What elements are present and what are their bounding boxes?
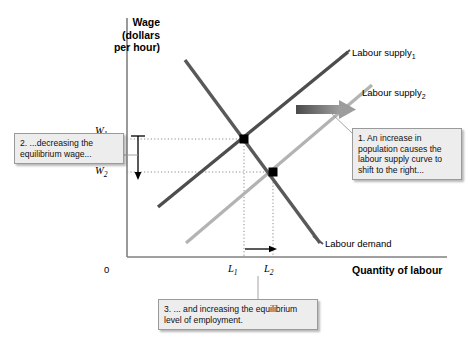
wage-tick-w2: W2 — [95, 165, 108, 179]
y-axis-title-line-2: (dollars — [94, 29, 160, 42]
labour-supply2-label-sub: 2 — [422, 93, 426, 100]
callout-population-increase: 1. An increase in population causes the … — [352, 128, 462, 180]
employment-increase-arrow — [245, 246, 277, 252]
quantity-tick-l2-sub: 2 — [270, 268, 274, 277]
labour-demand-curve — [185, 60, 320, 243]
quantity-tick-l1-sub: 1 — [234, 268, 238, 277]
equilibrium-marker-2 — [269, 168, 278, 177]
diagram-canvas: Wage (dollars per hour) Quantity of labo… — [0, 0, 470, 337]
origin-label: 0 — [104, 264, 109, 275]
labour-supply1-label-sub: 1 — [412, 53, 416, 60]
wage-tick-w2-base: W — [95, 165, 104, 176]
labour-supply2-label-text: Labour supply — [362, 87, 422, 98]
supply-shift-arrow — [296, 100, 356, 119]
labour-supply1-label: Labour supply1 — [352, 47, 416, 62]
callout-decreasing-wage: 2. ...decreasing the equilibrium wage... — [14, 133, 124, 164]
equilibrium-marker-1 — [240, 135, 249, 144]
wage-decrease-arrow — [131, 136, 145, 180]
x-axis-title: Quantity of labour — [352, 264, 442, 277]
labour-supply1-label-text: Labour supply — [352, 47, 412, 58]
supply1-label-pointer — [340, 50, 350, 58]
labour-demand-label: Labour demand — [325, 238, 392, 250]
y-axis-title-line-3: per hour) — [94, 41, 160, 54]
quantity-tick-l1: L1 — [228, 263, 238, 277]
wage-tick-w2-sub: 2 — [104, 170, 108, 179]
y-axis-title: Wage (dollars per hour) — [94, 16, 160, 54]
callout-increasing-employment: 3. ... and increasing the equilibrium le… — [158, 299, 318, 330]
y-axis-title-line-1: Wage — [94, 16, 160, 29]
quantity-tick-l2: L2 — [264, 263, 274, 277]
labour-supply2-label: Labour supply2 — [362, 87, 426, 102]
